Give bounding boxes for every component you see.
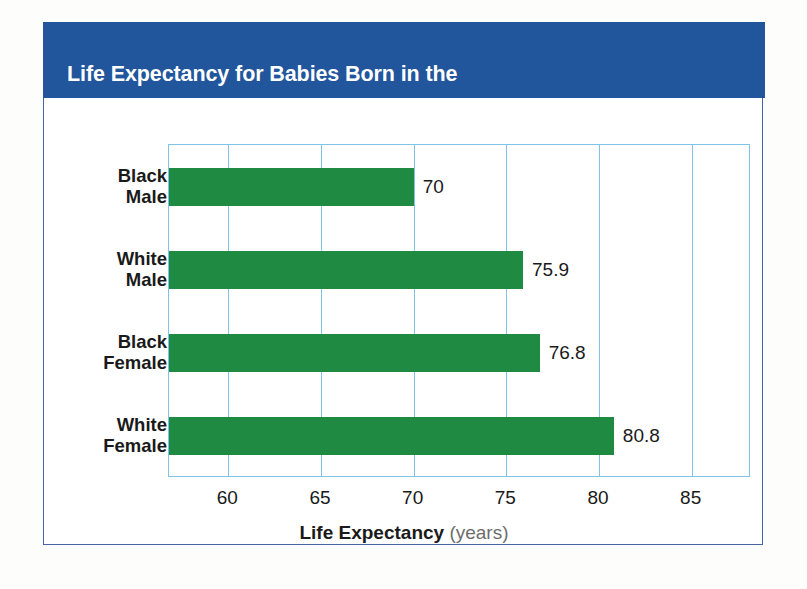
x-axis-title-text: Life Expectancy — [299, 522, 444, 543]
figure-header-band: Life Expectancy for Babies Born in the U… — [43, 22, 765, 98]
bar-black-male — [169, 168, 414, 206]
plot-area: 7075.976.880.8 — [168, 144, 750, 477]
figure-title-line-1: Life Expectancy for Babies Born in the — [67, 62, 457, 86]
bar-white-male — [169, 251, 523, 289]
category-label-black-male: Black Male — [7, 165, 167, 207]
category-label-black-female: Black Female — [7, 331, 167, 373]
plot-wrapper: Black MaleWhite MaleBlack FemaleWhite Fe… — [44, 99, 764, 545]
bar-black-female — [169, 334, 540, 372]
x-tick-75: 75 — [495, 487, 516, 509]
x-tick-80: 80 — [587, 487, 608, 509]
bar-value-label-black-male: 70 — [423, 168, 444, 206]
x-tick-85: 85 — [680, 487, 701, 509]
x-tick-65: 65 — [309, 487, 330, 509]
category-label-white-female: White Female — [7, 414, 167, 456]
bar-white-female — [169, 417, 614, 455]
x-axis-title-units: (years) — [449, 522, 508, 543]
gridline-85 — [692, 145, 693, 476]
figure-card: Life Expectancy for Babies Born in the U… — [43, 22, 763, 545]
x-tick-70: 70 — [402, 487, 423, 509]
bar-value-label-white-male: 75.9 — [532, 251, 569, 289]
category-label-white-male: White Male — [7, 248, 167, 290]
bar-value-label-white-female: 80.8 — [623, 417, 660, 455]
x-tick-60: 60 — [217, 487, 238, 509]
bar-value-label-black-female: 76.8 — [549, 334, 586, 372]
x-axis-title: Life Expectancy (years) — [44, 522, 764, 544]
